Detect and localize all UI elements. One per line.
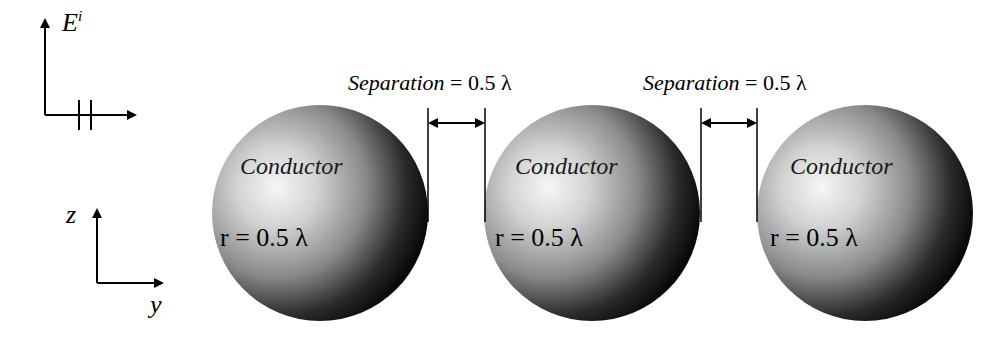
conductor-sphere-3: [757, 105, 973, 321]
separation-label-text: Separation: [643, 70, 740, 95]
separation-label-2: Separation = 0.5 λ: [643, 70, 807, 96]
separation-value: = 0.5 λ: [740, 70, 807, 95]
field-label: Ei: [62, 8, 82, 38]
conductor-sphere-1: [212, 105, 428, 321]
field-superscript: i: [78, 8, 82, 24]
sphere-2-material-label: Conductor: [515, 153, 618, 179]
sphere-2-radius-label: r = 0.5 λ: [495, 223, 583, 253]
field-symbol: E: [62, 8, 78, 37]
sphere-1-material-wrap: Conductor: [240, 153, 423, 187]
coordinate-axes-icon: [97, 210, 162, 283]
separation-dimension-2: [701, 108, 757, 222]
sphere-1-material-label: Conductor: [240, 153, 343, 179]
z-axis-label: z: [66, 200, 76, 230]
separation-label-text: Separation: [348, 70, 445, 95]
field-axes-icon: [45, 20, 135, 130]
separation-label-1: Separation = 0.5 λ: [348, 70, 512, 96]
sphere-3-material-wrap: Conductor: [790, 153, 968, 187]
sphere-3-material-label: Conductor: [790, 153, 893, 179]
sphere-2-material-wrap: Conductor: [515, 153, 695, 187]
sphere-1-radius-label: r = 0.5 λ: [220, 223, 308, 253]
sphere-3-radius-label: r = 0.5 λ: [770, 223, 858, 253]
y-axis-label: y: [150, 290, 162, 320]
conductor-sphere-2: [484, 105, 700, 321]
separation-value: = 0.5 λ: [445, 70, 512, 95]
separation-dimension-1: [428, 108, 485, 222]
